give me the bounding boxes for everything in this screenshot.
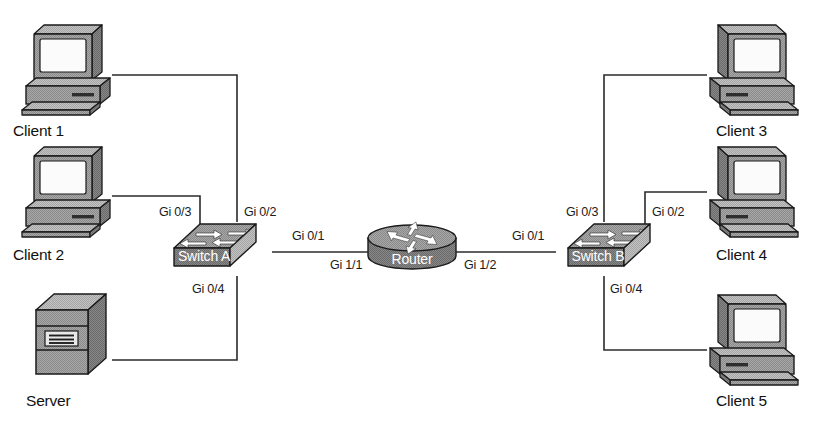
node-client2[interactable] xyxy=(22,147,110,237)
topology-canvas: Switch A Router Switch B Client 1 Client… xyxy=(0,0,838,438)
links-layer xyxy=(112,75,707,360)
switch-b-name: Switch B xyxy=(572,248,625,264)
label-client2: Client 2 xyxy=(13,246,64,263)
router-name: Router xyxy=(392,251,433,267)
port-label-switchb-gi01: Gi 0/1 xyxy=(512,229,544,243)
label-client4: Client 4 xyxy=(716,246,768,263)
switch-a-name: Switch A xyxy=(178,248,231,264)
label-client1: Client 1 xyxy=(13,122,64,139)
port-label-switchb-gi04: Gi 0/4 xyxy=(610,282,642,296)
link-client1-switchA xyxy=(112,75,237,222)
node-client5[interactable] xyxy=(710,295,798,385)
port-label-router-gi12: Gi 1/2 xyxy=(464,258,496,272)
node-server[interactable] xyxy=(36,294,106,374)
port-label-switchb-gi03: Gi 0/3 xyxy=(566,205,598,219)
node-client4[interactable] xyxy=(710,147,798,237)
port-label-switchb-gi02: Gi 0/2 xyxy=(652,205,684,219)
label-server: Server xyxy=(26,392,70,409)
node-client1[interactable] xyxy=(22,25,110,115)
port-label-switcha-gi03: Gi 0/3 xyxy=(159,205,191,219)
port-label-switcha-gi01: Gi 0/1 xyxy=(292,229,324,243)
node-client3[interactable] xyxy=(710,25,798,115)
label-client5: Client 5 xyxy=(716,392,767,409)
port-label-router-gi11: Gi 1/1 xyxy=(330,258,362,272)
network-topology-diagram: Switch A Router Switch B Client 1 Client… xyxy=(0,0,838,438)
link-switchB-client3 xyxy=(604,75,707,222)
label-client3: Client 3 xyxy=(716,122,767,139)
port-label-switcha-gi04: Gi 0/4 xyxy=(192,282,224,296)
port-label-switcha-gi02: Gi 0/2 xyxy=(244,205,276,219)
